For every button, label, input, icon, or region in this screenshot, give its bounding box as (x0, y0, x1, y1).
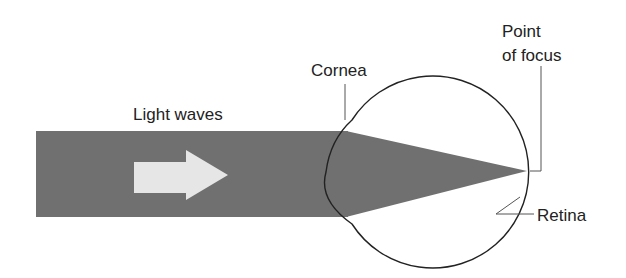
focused-light-cone (346, 131, 527, 217)
point-of-focus-label-line2: of focus (502, 46, 562, 65)
retina-leader-line (496, 197, 534, 214)
retina-label: Retina (537, 206, 587, 225)
point-of-focus-leader-line (530, 66, 541, 171)
point-of-focus-label-line1: Point (502, 22, 541, 41)
eye-focus-diagram: Light waves Cornea Point of focus Retina (0, 0, 626, 278)
light-waves-label: Light waves (133, 105, 223, 124)
cornea-label: Cornea (311, 61, 367, 80)
